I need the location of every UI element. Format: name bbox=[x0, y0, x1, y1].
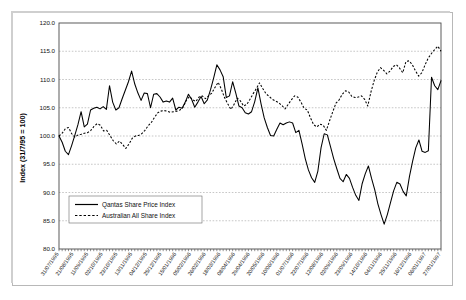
y-axis-tick-labels: 120.0115.0110.0105.0100.095.090.085.080.… bbox=[40, 19, 56, 252]
y-axis-tick-label: 90.0 bbox=[43, 189, 56, 196]
y-axis-tick-label: 80.0 bbox=[43, 245, 56, 252]
y-axis-tick-label: 85.0 bbox=[43, 217, 56, 224]
y-axis-tick-label: 100.0 bbox=[40, 132, 56, 139]
series-australian-all-share-index bbox=[59, 46, 441, 148]
chart-frame: Index (31/7/95 = 100) 120.0115.0110.0105… bbox=[12, 12, 453, 286]
y-axis-tick-label: 95.0 bbox=[43, 160, 56, 167]
legend-label-qantas: Qantas Share Price Index bbox=[102, 201, 176, 209]
gridlines bbox=[59, 51, 441, 221]
y-axis-tick-label: 120.0 bbox=[40, 19, 56, 26]
line-chart: Index (31/7/95 = 100) 120.0115.0110.0105… bbox=[13, 13, 452, 285]
y-axis-tick-label: 110.0 bbox=[40, 76, 56, 83]
y-axis-tick-label: 105.0 bbox=[40, 104, 56, 111]
x-axis-tick-labels: 31/07/199521/08/199511/09/199502/10/1995… bbox=[39, 251, 441, 277]
legend-label-australian: Australian All Share Index bbox=[102, 212, 176, 219]
legend: Qantas Share Price Index Australian All … bbox=[69, 196, 202, 223]
y-axis-title: Index (31/7/95 = 100) bbox=[18, 113, 27, 183]
y-axis-tick-label: 115.0 bbox=[40, 47, 56, 54]
